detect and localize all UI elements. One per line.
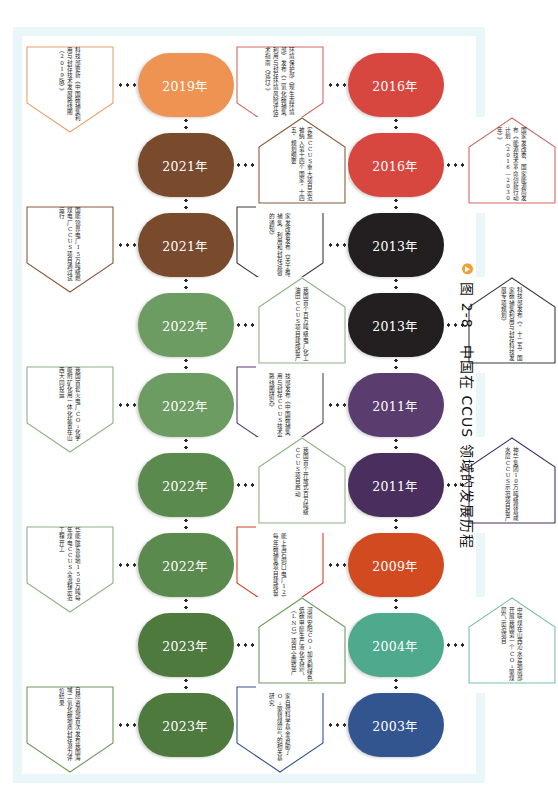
timeline-connector [394,117,398,133]
timeline-node-2022-4[interactable]: 2022年 [138,293,234,357]
callout-leader [234,643,256,647]
timeline-node-2019-1[interactable]: 2019年 [138,53,234,117]
timeline-connector [394,357,398,373]
callout-leader [234,163,256,167]
timeline-node-2013-3[interactable]: 2013年 [348,213,444,277]
timeline-connector [184,677,188,693]
callout-leader [116,403,138,407]
timeline-node-year: 2016年 [372,75,418,94]
timeline-node-year: 2022年 [162,555,208,574]
callout-leader [234,323,256,327]
callout-text: 自然资源部首次发布我国海域二氧化碳地质封存潜力评价结果 [57,686,81,762]
callout-text: 科技部发布《中国碳捕集、利用与封存CCUS技术发展路线图研究》 [267,366,291,442]
timeline-node-year: 2003年 [372,715,418,734]
timeline-node-2022-6[interactable]: 2022年 [138,453,234,517]
callout-leader [116,563,138,567]
timeline-node-year: 2004年 [372,635,418,654]
timeline-connector [184,517,188,533]
callout-leader [326,563,348,567]
callout-text: 我国首套火电厂CO₂化学吸附矿化用一体化装置在山西大同投运 [57,366,81,442]
timeline-node-year: 2022年 [162,395,208,414]
timeline-connector [184,277,188,293]
timeline-node-2004-8[interactable]: 2004年 [348,613,444,677]
callout-text: 环境保护部（现生态环境部）发布《二氧化碳捕集、利用与封存环境风险评估技术指南（试… [263,47,295,123]
timeline-callout-2[interactable]: 实施CCUS重大项目示范被纳入第十四个国家“十四五”规划纲要 [256,117,348,213]
callout-text: 国家自然科学基金资助了CO₂驱替煤层气的相关基础研究 [267,686,291,762]
timeline-callout-5[interactable]: 我国首套火电厂CO₂化学吸附矿化用一体化装置在山西大同投运 [24,357,116,453]
timeline-canvas: 2016年环境保护部（现生态环境部）发布《二氧化碳捕集、利用与封存环境风险评估技… [28,37,482,775]
callout-text: 国家发改委发布《关于推动碳捕集、利用和封存试验示范的通知》 [267,206,291,282]
caption-title: 中国在 CCUS 领域的发展历程 [459,345,475,549]
timeline-connector [394,677,398,693]
timeline-node-2009-7[interactable]: 2009年 [348,533,444,597]
callout-text: 华能上海石洞口电厂12万吨每年碳捕集项目建成投产 [271,527,287,603]
callout-leader [116,723,138,727]
timeline-node-year: 2011年 [372,475,418,494]
timeline-node-year: 2022年 [162,315,208,334]
timeline-connector [184,117,188,133]
timeline-node-2022-7[interactable]: 2022年 [138,533,234,597]
timeline-node-year: 2019年 [162,75,208,94]
timeline-node-year: 2021年 [162,235,208,254]
callout-text: 科技部发布《“十二五”国家碳捕集利用与封存科技发展专项规划》 [499,286,523,362]
timeline-callout-6[interactable]: 我国首个开放式百万吨级CCUS项目启动 [256,437,348,533]
callout-text: 国能锦界电厂15万吨级燃煤电厂CCUS项目通过试运行 [57,206,81,282]
callout-text: 华能陇东基地150万吨每年煤电CCUS全流程示范工程开工 [57,526,81,602]
timeline-node-2013-4[interactable]: 2013年 [348,293,444,357]
timeline-connector [394,197,398,213]
timeline-connector [394,277,398,293]
timeline-node-year: 2023年 [162,715,208,734]
timeline-callout-1[interactable]: 科技部更新《中国碳捕集利用与封存技术发展路线图（2019版）》 [24,37,116,133]
callout-leader [234,483,256,487]
timeline-connector [394,517,398,533]
timeline-callout-3[interactable]: 国能锦界电厂15万吨级燃煤电厂CCUS项目通过试运行 [24,197,116,293]
callout-leader [116,243,138,247]
callout-leader [326,723,348,727]
callout-text: 河南安阳CO₂加氢制绿色低碳甲醇生产液化天然气（LNG）项目全面投产 [289,606,313,682]
timeline-connector [184,197,188,213]
timeline-callout-4[interactable]: 我国首个百万吨级电厂化工油田CCUS项目建成投产 [256,277,348,373]
callout-text: 中联煤在山西沁水盆地南部开展我国第一个CO₂驱煤层气示范项目 [499,606,523,682]
timeline-callout-7[interactable]: 华能陇东基地150万吨每年煤电CCUS全流程示范工程开工 [24,517,116,613]
timeline-node-2023-8[interactable]: 2023年 [138,613,234,677]
callout-text: 科技部更新《中国碳捕集利用与封存技术发展路线图（2019版）》 [57,46,81,122]
caption-text: 图 2-8 中国在 CCUS 领域的发展历程 [458,282,478,548]
timeline-node-year: 2013年 [372,315,418,334]
timeline-callout-8[interactable]: 河南安阳CO₂加氢制绿色低碳甲醇生产液化天然气（LNG）项目全面投产 [256,597,348,693]
callout-leader [326,83,348,87]
timeline-node-year: 2009年 [372,555,418,574]
callout-leader [326,243,348,247]
callout-leader [116,83,138,87]
timeline-node-2003-9[interactable]: 2003年 [348,693,444,757]
callout-text: 国家发改委、国家能源局发布《能源技术革命创新行动计划（2016—2030年）》 [495,127,527,203]
timeline-connector [394,597,398,613]
callout-leader [326,403,348,407]
triangle-bullet-icon [463,263,474,274]
timeline-node-2021-3[interactable]: 2021年 [138,213,234,277]
timeline-node-year: 2021年 [162,155,208,174]
timeline-node-2011-5[interactable]: 2011年 [348,373,444,437]
timeline-node-2022-5[interactable]: 2022年 [138,373,234,437]
timeline-node-year: 2011年 [372,395,418,414]
timeline-node-year: 2016年 [372,155,418,174]
timeline-node-2016-2[interactable]: 2016年 [348,133,444,197]
timeline-node-year: 2013年 [372,235,418,254]
callout-text: 我国首个开放式百万吨级CCUS项目启动 [293,447,309,523]
timeline-node-2016-1[interactable]: 2016年 [348,53,444,117]
callout-text: 实施CCUS重大项目示范被纳入第十四个国家“十四五”规划纲要 [289,126,313,202]
timeline-connector [184,357,188,373]
timeline-connector [184,437,188,453]
caption-label: 图 2-8 [459,282,475,328]
timeline-callout-9[interactable]: 自然资源部首次发布我国海域二氧化碳地质封存潜力评价结果 [24,677,116,773]
timeline-connector [394,437,398,453]
timeline-node-year: 2023年 [162,635,208,654]
callout-text: 我国首个百万吨级电厂化工油田CCUS项目建成投产 [293,287,309,363]
timeline-node-2011-6[interactable]: 2011年 [348,453,444,517]
timeline-node-year: 2022年 [162,475,208,494]
callout-text: 神华集团10万吨级煤基咸水层CCUS示范项目投产 [503,447,519,523]
timeline-node-2023-9[interactable]: 2023年 [138,693,234,757]
timeline-node-2021-2[interactable]: 2021年 [138,133,234,197]
timeline-connector [184,597,188,613]
figure-caption: 图 2-8 中国在 CCUS 领域的发展历程 [445,0,491,811]
